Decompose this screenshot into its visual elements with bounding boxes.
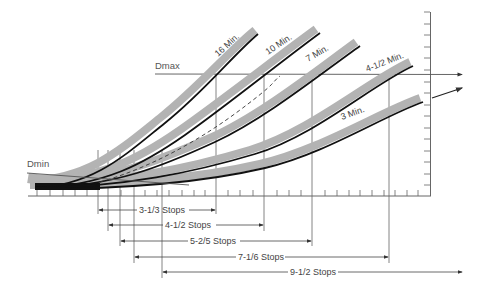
range-label-9-1-2: 9-1/2 Stops — [290, 267, 337, 277]
right-arrow — [432, 88, 462, 98]
dmax-label: Dmax — [155, 60, 180, 71]
range-label-5-2-5: 5-2/5 Stops — [190, 236, 237, 246]
diagram-canvas: Dmax Dmin 16 Min. 10 Min. 7 — [0, 0, 484, 287]
range-label-4-1-2: 4-1/2 Stops — [165, 220, 212, 230]
characteristic-curve-diagram: Dmax Dmin 16 Min. 10 Min. 7 — [0, 0, 484, 287]
dmin-label: Dmin — [27, 158, 49, 169]
range-label-3-1-3: 3-1/3 Stops — [139, 205, 186, 215]
y-axis-ticks — [424, 12, 430, 185]
range-label-7-1-6: 7-1/6 Stops — [238, 252, 285, 262]
stop-ranges — [99, 210, 462, 272]
x-axis-ticks — [37, 190, 418, 196]
